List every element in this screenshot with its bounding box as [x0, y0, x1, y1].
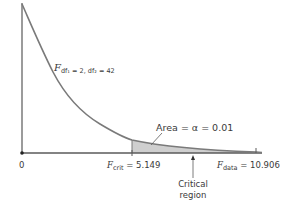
- tick-label-zero: 0: [19, 160, 24, 170]
- critical-region-label-line2: region: [180, 190, 207, 200]
- curve-label: Fdf₁ = 2, df₂ = 42: [53, 62, 115, 75]
- critical-region-label-line1: Critical: [178, 179, 208, 189]
- tick-label-fcrit: Fcrit = 5.149: [106, 160, 160, 172]
- f-distribution-chart: Fdf₁ = 2, df₂ = 42 Area = α = 0.01 0 Fcr…: [0, 0, 285, 217]
- origin-dot: [20, 151, 24, 155]
- critical-region-arrow-head: [191, 155, 195, 160]
- area-leader-line: [151, 133, 162, 145]
- area-annotation: Area = α = 0.01: [156, 122, 233, 133]
- tick-label-fdata: Fdata = 10.906: [216, 160, 280, 172]
